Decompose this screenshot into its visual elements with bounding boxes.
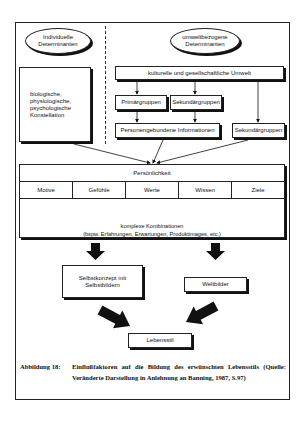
- self-concept-label: Selbstkonzept mit Selbstbildern: [78, 275, 128, 289]
- caption-text: Einflußfaktoren auf die Bildung des erwü…: [72, 361, 286, 383]
- world-views-label: Weltbilder: [202, 281, 229, 288]
- personality-traits-row: Motive Gefühle Werte Wissen Ziele: [20, 182, 284, 199]
- secondary-groups-right-box: Sekundärgruppen: [232, 123, 285, 138]
- trait-werte: Werte: [126, 182, 179, 198]
- complex-combinations: komplexe Kombinationen (bspw. Erfahrunge…: [20, 223, 284, 238]
- complex-combinations-title: komplexe Kombinationen: [20, 223, 284, 231]
- personality-title: Persönlichkeit: [20, 165, 284, 182]
- individual-constellation-label: biologische, physiologische, psychologis…: [30, 91, 82, 119]
- individual-determinants-ellipse: Individuelle Determinanten: [25, 28, 91, 54]
- primary-groups-label: Primärgruppen: [121, 99, 161, 106]
- person-info-label: Personengebundene Informationen: [120, 127, 214, 134]
- culture-environment-box: kulturelle und gesellschaftliche Umwelt: [115, 66, 284, 80]
- trait-gefuehle: Gefühle: [73, 182, 126, 198]
- caption-label: Abbildung 18:: [20, 361, 61, 372]
- lifestyle-label: Lebensstil: [146, 337, 173, 344]
- culture-environment-label: kulturelle und gesellschaftliche Umwelt: [148, 70, 251, 77]
- lifestyle-box: Lebensstil: [128, 333, 192, 348]
- environmental-determinants-label: umweltbezogene Determinanten: [182, 34, 228, 48]
- trait-motive: Motive: [20, 182, 73, 198]
- secondary-groups-label: Sekundärgruppen: [172, 99, 220, 106]
- environmental-determinants-ellipse: umweltbezogene Determinanten: [170, 28, 240, 54]
- trait-ziele: Ziele: [232, 182, 284, 198]
- secondary-groups-right-label: Sekundärgruppen: [235, 127, 283, 134]
- self-concept-box: Selbstkonzept mit Selbstbildern: [62, 265, 143, 298]
- primary-groups-box: Primärgruppen: [115, 95, 167, 110]
- world-views-box: Weltbilder: [184, 277, 247, 292]
- person-info-box: Personengebundene Informationen: [115, 123, 220, 138]
- personality-box: Persönlichkeit Motive Gefühle Werte Wiss…: [19, 164, 285, 238]
- individual-determinants-label: Individuelle Determinanten: [38, 34, 78, 48]
- secondary-groups-box: Sekundärgruppen: [170, 95, 222, 110]
- trait-wissen: Wissen: [179, 182, 232, 198]
- individual-constellation-box: biologische, physiologische, psychologis…: [19, 67, 91, 142]
- complex-combinations-examples: (bspw. Erfahrungen, Erwartungen, Produkt…: [20, 231, 284, 239]
